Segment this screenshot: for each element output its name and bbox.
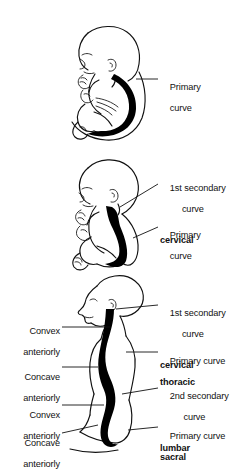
label-concave-anteriorly-sacral: Concave anteriorly xyxy=(13,428,60,473)
label-line: Primary curve xyxy=(170,431,225,441)
label-line: Primary xyxy=(170,82,201,92)
label-line: Convex xyxy=(29,326,60,336)
label-convex-anteriorly-cervical: Convex anteriorly xyxy=(13,316,60,368)
label-line: Primary curve xyxy=(170,356,225,366)
panel-adult-artwork xyxy=(70,276,143,452)
label-line: curve xyxy=(170,251,192,261)
panel-fetus-artwork xyxy=(72,26,145,140)
label-primary-curve-sacral: Primary curve sacral xyxy=(160,421,225,473)
leader-line-first-secondary-curve-adult xyxy=(116,305,158,309)
label-line: curve xyxy=(160,329,226,339)
label-line: Concave xyxy=(24,372,60,382)
spine-curve-adult xyxy=(98,309,118,447)
primary-curve-fetus xyxy=(88,74,136,136)
leader-line-primary-curve-infant xyxy=(133,227,158,238)
label-line: Primary xyxy=(170,230,201,240)
label-primary-curve-infant: Primary curve xyxy=(160,220,201,272)
label-line: anteriorly xyxy=(23,459,60,469)
label-line: 1st secondary xyxy=(170,183,226,193)
label-primary-curve-fetus: Primary curve xyxy=(160,72,201,124)
label-line: Convex xyxy=(29,410,60,420)
leader-line-first-secondary-curve-infant xyxy=(120,184,158,207)
leader-line-primary-curve-sacral xyxy=(128,427,158,430)
label-line: anteriorly xyxy=(23,347,60,357)
label-line: Concave xyxy=(24,438,60,448)
label-line: curve xyxy=(170,103,192,113)
panel-infant-artwork xyxy=(73,160,139,270)
label-line-emphasis: sacral xyxy=(160,452,225,462)
label-line: 1st secondary xyxy=(170,308,226,318)
label-line: curve xyxy=(160,204,226,214)
leader-line-second-secondary-curve-lumbar xyxy=(122,388,158,394)
label-line: 2nd secondary xyxy=(170,391,229,401)
